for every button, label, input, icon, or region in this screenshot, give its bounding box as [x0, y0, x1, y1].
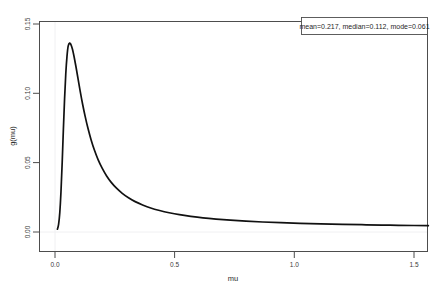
y-ticklabel-2: 0.05	[24, 156, 31, 169]
x-axis-title: mu	[228, 274, 238, 283]
x-axis-ticklabels: 0.0 0.5 1.0 1.5	[50, 261, 418, 268]
density-plot: 0.15 0.10 0.05 0.00 g(mu) 0.0 0.5 1.0 1.…	[0, 0, 440, 293]
x-ticklabel-2: 1.0	[290, 261, 299, 268]
x-ticklabel-0: 0.0	[50, 261, 59, 268]
y-axis-title: g(mu)	[8, 126, 17, 146]
faint-header-text	[120, 0, 420, 11]
plot-frame	[40, 22, 428, 252]
y-ticklabel-0: 0.15	[24, 17, 31, 30]
legend-label: mean=0.217, median=0.112, mode=0.061	[299, 23, 429, 30]
x-ticklabel-3: 1.5	[409, 261, 418, 268]
y-axis-ticks	[33, 24, 39, 232]
x-ticklabel-1: 0.5	[170, 261, 179, 268]
x-axis-ticks	[55, 252, 414, 258]
y-ticklabel-3: 0.00	[24, 225, 31, 238]
faint-gridlines	[39, 21, 428, 252]
legend-box: mean=0.217, median=0.112, mode=0.061	[299, 18, 429, 35]
y-ticklabel-1: 0.10	[24, 87, 31, 100]
y-axis-ticklabels: 0.15 0.10 0.05 0.00	[24, 17, 31, 238]
density-curve	[57, 43, 428, 229]
figure-container: 0.15 0.10 0.05 0.00 g(mu) 0.0 0.5 1.0 1.…	[0, 0, 440, 293]
